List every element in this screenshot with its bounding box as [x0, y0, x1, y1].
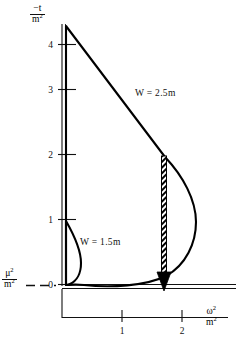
- y-tick-label-2: 2: [48, 150, 53, 160]
- y-axis-tick-labels: 0 1 2 3 4: [48, 40, 53, 290]
- x-tick-label-1: 1: [120, 326, 125, 336]
- x-axis-caption: ω2 m2: [204, 307, 219, 328]
- curve-label-inner: W = 1.5m: [80, 237, 121, 247]
- curve-label-outer: W = 2.5m: [135, 88, 176, 98]
- y-tick-label-1: 1: [48, 215, 53, 225]
- axis-lines: [62, 24, 236, 318]
- x-tick-label-2: 2: [180, 326, 185, 336]
- x-axis-tick-labels: 1 2: [120, 326, 185, 336]
- transition-arrow: [157, 156, 171, 291]
- y-tick-label-4: 4: [48, 40, 53, 50]
- curve-w25: [66, 26, 196, 286]
- baseline-caption-denominator: m2: [2, 280, 17, 290]
- y-axis-caption-denominator: m2: [30, 15, 45, 25]
- figure-canvas: −t m2 μ2 m2 ω2 m2: [0, 0, 239, 339]
- transition-arrow-shaft: [162, 156, 167, 280]
- baseline-caption: μ2 m2: [2, 269, 17, 290]
- plot-svg: 0 1 2 3 4 1 2 W = 2.5m W =: [0, 0, 239, 339]
- x-axis-caption-denominator: m2: [204, 318, 219, 328]
- y-axis-caption: −t m2: [30, 4, 45, 25]
- curve-w15: [66, 221, 81, 285]
- y-tick-label-3: 3: [48, 85, 53, 95]
- x-axis-ticks: [122, 310, 182, 322]
